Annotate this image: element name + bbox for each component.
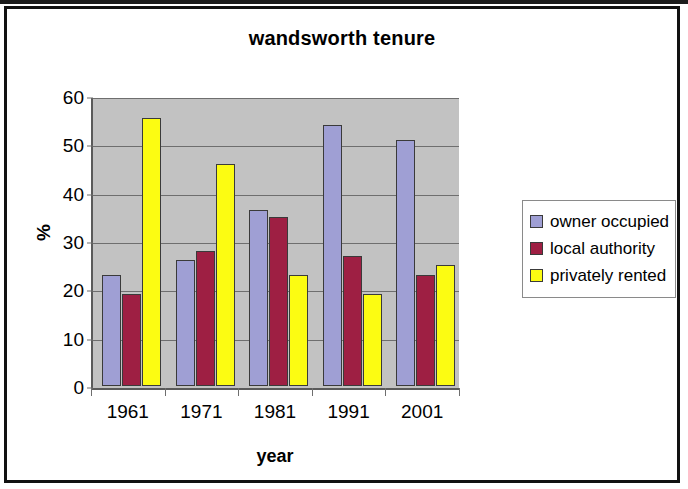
bar bbox=[363, 294, 382, 386]
bar bbox=[176, 260, 195, 386]
legend-item-label: privately rented bbox=[550, 266, 666, 286]
bar-group bbox=[167, 96, 241, 386]
x-tick-label: 2001 bbox=[377, 401, 467, 423]
plot-area: 0102030405060 bbox=[91, 98, 459, 390]
bar bbox=[102, 275, 121, 386]
y-tick-label: 60 bbox=[63, 87, 84, 109]
bar bbox=[269, 217, 288, 386]
bar bbox=[249, 210, 268, 386]
bar-group bbox=[387, 96, 461, 386]
bar bbox=[216, 164, 235, 386]
y-tick-label: 40 bbox=[63, 184, 84, 206]
y-axis-title: % bbox=[33, 224, 55, 241]
bar bbox=[416, 275, 435, 386]
legend-swatch-icon bbox=[530, 269, 543, 282]
x-axis-title: year bbox=[91, 446, 459, 467]
legend-item[interactable]: privately rented bbox=[530, 262, 669, 289]
bar bbox=[289, 275, 308, 386]
bar bbox=[436, 265, 455, 386]
x-tick-mark bbox=[312, 388, 313, 396]
y-tick-label: 20 bbox=[63, 280, 84, 302]
legend-item[interactable]: local authority bbox=[530, 235, 669, 262]
bar bbox=[396, 140, 415, 387]
legend-item-label: local authority bbox=[550, 239, 655, 259]
y-tick-label: 50 bbox=[63, 135, 84, 157]
legend-swatch-icon bbox=[530, 242, 543, 255]
y-tick-label: 30 bbox=[63, 232, 84, 254]
x-tick-mark bbox=[459, 388, 460, 396]
y-tick-label: 10 bbox=[63, 329, 84, 351]
legend-swatch-icon bbox=[530, 215, 543, 228]
y-tick-mark bbox=[87, 388, 93, 389]
legend-item[interactable]: owner occupied bbox=[530, 208, 669, 235]
bar-group bbox=[93, 96, 167, 386]
chart-frame: wandsworth tenure % 0102030405060 196119… bbox=[4, 6, 680, 483]
x-tick-mark bbox=[385, 388, 386, 396]
x-tick-mark bbox=[91, 388, 92, 396]
y-tick-label: 0 bbox=[73, 377, 84, 399]
x-tick-mark bbox=[238, 388, 239, 396]
bar bbox=[323, 125, 342, 386]
legend-item-label: owner occupied bbox=[550, 212, 669, 232]
bar-group bbox=[314, 96, 388, 386]
plot-wrap: 0102030405060 19611971198119912001 bbox=[91, 98, 459, 395]
bar bbox=[122, 294, 141, 386]
x-tick-mark bbox=[165, 388, 166, 396]
chart-legend: owner occupiedlocal authorityprivately r… bbox=[522, 200, 676, 298]
screenshot-page: wandsworth tenure % 0102030405060 196119… bbox=[0, 0, 688, 489]
bar bbox=[343, 256, 362, 387]
bar-group bbox=[240, 96, 314, 386]
bar bbox=[196, 251, 215, 386]
bar bbox=[142, 118, 161, 386]
chart-title: wandsworth tenure bbox=[7, 27, 677, 50]
scan-edge-artifact bbox=[0, 0, 688, 4]
